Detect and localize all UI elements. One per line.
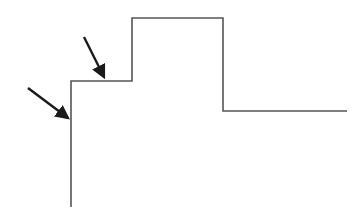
arrow-to-vertical-edge-icon [28,88,68,118]
step-profile-line [71,18,347,207]
step-diagram [0,0,364,215]
diagram-canvas [0,0,364,215]
arrow-to-step-ledge-icon [84,37,104,77]
